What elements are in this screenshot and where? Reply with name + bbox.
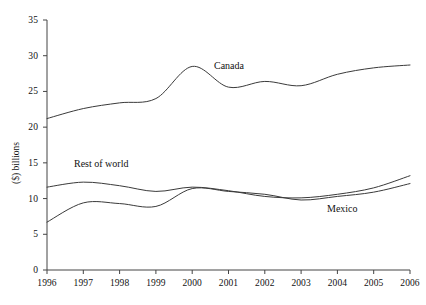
y-axis-tick-label: 35 (12, 15, 38, 25)
y-axis-title: ($) billions (11, 123, 21, 203)
series-label-rest-of-world: Rest of world (74, 158, 128, 169)
y-axis-tick-label: 25 (12, 86, 38, 96)
y-axis-tick-label: 5 (12, 229, 38, 239)
x-axis-tick-label: 2003 (291, 278, 310, 288)
line-chart: 05101520253035 1996199719981999200020012… (0, 0, 426, 305)
y-axis-tick-label: 30 (12, 51, 38, 61)
series-lines (47, 65, 410, 222)
x-axis-ticks (47, 270, 410, 274)
x-axis-tick-label: 2002 (255, 278, 274, 288)
chart-plot-area (0, 0, 426, 305)
x-axis-tick-label: 1996 (37, 278, 56, 288)
x-axis-tick-label: 1998 (110, 278, 129, 288)
x-axis-tick-label: 2004 (328, 278, 347, 288)
series-line-canada (47, 65, 410, 119)
x-axis-tick-label: 1999 (146, 278, 165, 288)
y-axis-ticks (43, 20, 47, 270)
series-label-canada: Canada (214, 60, 244, 71)
x-axis-tick-label: 2005 (364, 278, 383, 288)
x-axis-tick-label: 2006 (400, 278, 419, 288)
x-axis-tick-label: 1997 (74, 278, 93, 288)
series-label-mexico: Mexico (327, 203, 358, 214)
x-axis-tick-label: 2001 (219, 278, 238, 288)
x-axis-tick-label: 2000 (182, 278, 201, 288)
y-axis-tick-label: 0 (12, 265, 38, 275)
